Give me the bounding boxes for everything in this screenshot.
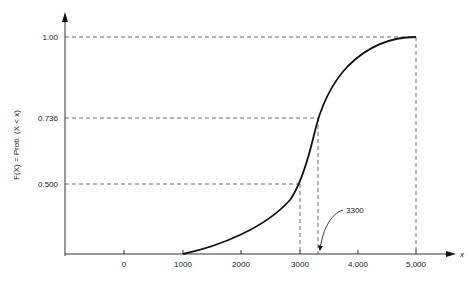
cdf-chart: x 0 1000 2000 3000 4,000 5,000 0.500 0.7… bbox=[0, 0, 468, 282]
y-tick-label: 1.00 bbox=[42, 33, 58, 42]
y-axis-label: F(X) = Prob. (X < x) bbox=[12, 110, 21, 180]
x-tick-label: 0 bbox=[122, 260, 127, 269]
cdf-curve bbox=[183, 37, 416, 254]
annotation-arrow-icon bbox=[320, 210, 343, 250]
reference-lines bbox=[65, 37, 416, 254]
y-tick-label: 0.500 bbox=[38, 180, 59, 189]
x-ticks bbox=[124, 250, 416, 254]
x-tick-label: 2000 bbox=[232, 260, 250, 269]
x-axis-arrow-icon bbox=[446, 251, 456, 257]
x-axis-label: x bbox=[459, 250, 465, 259]
y-tick-label: 0.736 bbox=[38, 114, 59, 123]
y-axis-arrow-icon bbox=[62, 12, 68, 22]
x-tick-label: 3000 bbox=[291, 260, 309, 269]
annotation-label: 3300 bbox=[346, 206, 364, 215]
x-tick-label: 5,000 bbox=[406, 260, 427, 269]
x-tick-label: 4,000 bbox=[348, 260, 369, 269]
x-tick-label: 1000 bbox=[174, 260, 192, 269]
